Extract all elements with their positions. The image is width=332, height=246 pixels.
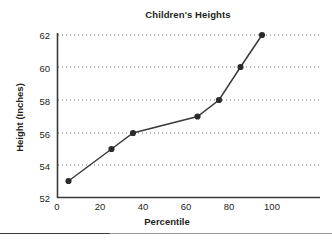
data-point-25-55 (108, 146, 114, 152)
data-point-35-56 (130, 130, 136, 136)
chart-figure: Children's Heights Height (Inches) Perce… (0, 0, 332, 246)
data-point-85-60 (237, 64, 243, 70)
data-point-95-62 (259, 32, 265, 38)
data-line (69, 35, 263, 181)
data-point-75-58 (216, 97, 222, 103)
gridlines (58, 35, 320, 165)
plot-area (0, 0, 332, 246)
data-point-65-57 (194, 113, 200, 119)
page-divider-accent (0, 233, 110, 234)
data-point-5-53 (65, 178, 71, 184)
